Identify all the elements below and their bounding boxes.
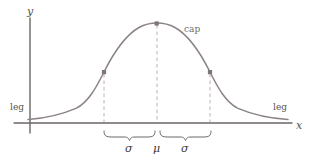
x-axis-label: x [296, 120, 302, 131]
left-leg-region-label: leg [10, 103, 24, 112]
marker-inflection-left [102, 70, 106, 74]
cap-region-label: cap [184, 25, 200, 34]
sigma-right-label: σ [181, 143, 189, 154]
marker-inflection-right [208, 70, 212, 74]
gaussian-curve [28, 23, 288, 120]
figure-canvas: y x cap leg leg σ μ σ [0, 0, 309, 160]
mean-label: μ [153, 143, 160, 154]
bell-curve-diagram [0, 0, 309, 160]
right-leg-region-label: leg [273, 103, 287, 112]
brace-sigma-left [104, 131, 155, 141]
brace-sigma-right [160, 131, 211, 141]
y-axis-label: y [27, 6, 33, 17]
marker-peak [155, 21, 159, 25]
sigma-left-label: σ [125, 143, 133, 154]
